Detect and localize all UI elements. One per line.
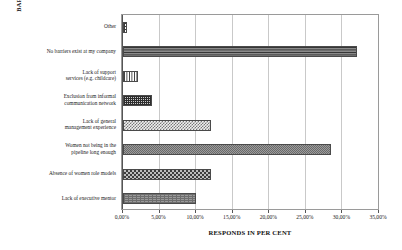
category-label-line: pipeline long enough xyxy=(20,149,116,155)
category-label-line: Absence of women role models xyxy=(20,170,116,176)
gridline xyxy=(159,15,160,209)
gridline xyxy=(341,15,342,209)
category-label-line: Other xyxy=(20,23,116,29)
x-tick-label: 10,00% xyxy=(175,213,215,221)
bar-chart: BARRIERS TO WOMEN'S PROMOTION OtherNo ba… xyxy=(0,0,402,250)
x-axis-title: RESPONDS IN PER CENT xyxy=(121,229,379,236)
bar xyxy=(123,120,211,131)
category-label-column: OtherNo barriers exist at my companyLack… xyxy=(22,14,118,210)
category-label: Lack of supportservices (e.g. childcare) xyxy=(20,69,116,82)
x-axis-ticks: 0,00%5,00%10,00%15,00%20,00%25,00%30,00%… xyxy=(121,210,379,222)
gridline xyxy=(378,15,379,209)
category-label: No barriers exist at my company xyxy=(20,48,116,54)
category-label: Women not being in thepipeline long enou… xyxy=(20,142,116,155)
bar xyxy=(123,95,152,106)
x-tick-label: 5,00% xyxy=(139,213,179,221)
bar xyxy=(123,193,196,204)
bar xyxy=(123,144,331,155)
bar xyxy=(123,22,127,33)
x-tick-label: 35,00% xyxy=(358,213,398,221)
category-label-line: Lack of executive mentor xyxy=(20,195,116,201)
category-label: Exclusion from informalcommunication net… xyxy=(20,93,116,106)
category-label: Absence of women role models xyxy=(20,170,116,176)
bar xyxy=(123,46,357,57)
category-label-line: services (e.g. childcare) xyxy=(20,75,116,81)
plot-area xyxy=(121,14,379,210)
value-axis-line xyxy=(122,15,123,209)
category-label: Lack of generalmanagement experience xyxy=(20,118,116,131)
category-label-line: management experience xyxy=(20,124,116,130)
bar xyxy=(123,169,211,180)
category-label-line: communication network xyxy=(20,100,116,106)
x-tick-label: 25,00% xyxy=(285,213,325,221)
x-tick-label: 0,00% xyxy=(102,213,142,221)
x-tick-label: 20,00% xyxy=(248,213,288,221)
gridline xyxy=(232,15,233,209)
gridline xyxy=(268,15,269,209)
category-label: Other xyxy=(20,23,116,29)
x-tick-label: 30,00% xyxy=(321,213,361,221)
category-label: Lack of executive mentor xyxy=(20,195,116,201)
gridline xyxy=(305,15,306,209)
gridline xyxy=(195,15,196,209)
bar xyxy=(123,71,138,82)
x-tick-label: 15,00% xyxy=(212,213,252,221)
category-label-line: No barriers exist at my company xyxy=(20,48,116,54)
